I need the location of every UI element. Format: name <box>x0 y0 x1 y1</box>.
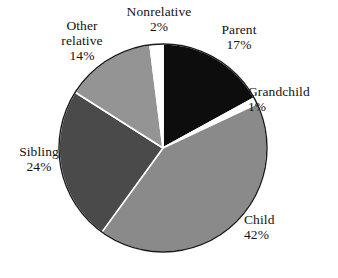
pie-label-parent-name: Parent <box>196 22 282 37</box>
pie-label-child-name: Child <box>244 212 318 227</box>
pie-label-grandchild-value: 1% <box>248 99 338 114</box>
pie-label-other-relative-name-line1: Other <box>40 18 124 33</box>
pie-label-parent: Parent 17% <box>196 22 282 52</box>
pie-label-parent-value: 17% <box>196 37 282 52</box>
pie-label-child: Child 42% <box>244 212 318 242</box>
pie-label-grandchild: Grandchild 1% <box>248 84 338 114</box>
pie-label-other-relative-value: 14% <box>40 48 124 63</box>
pie-label-sibling: Sibling 24% <box>2 144 76 174</box>
pie-label-sibling-value: 24% <box>2 159 76 174</box>
pie-label-nonrelative-name: Nonrelative <box>104 4 214 19</box>
pie-label-child-value: 42% <box>244 227 318 242</box>
pie-label-sibling-name: Sibling <box>2 144 76 159</box>
pie-slice-group <box>59 44 267 252</box>
pie-chart: Nonrelative 2% Parent 17% Grandchild 1% … <box>0 0 338 278</box>
pie-label-other-relative-name-line2: relative <box>40 33 124 48</box>
pie-label-grandchild-name: Grandchild <box>248 84 338 99</box>
pie-label-other-relative: Other relative 14% <box>40 18 124 63</box>
